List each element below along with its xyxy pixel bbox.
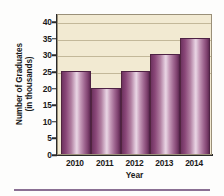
x-axis-tick-label: 2011: [90, 157, 120, 170]
bar: [180, 38, 210, 154]
x-axis-tick-label: 2010: [60, 157, 90, 170]
plot-area: [57, 14, 212, 155]
y-axis-tick-label: 15: [43, 101, 52, 110]
bar: [91, 88, 121, 154]
y-axis-tick-label: 30: [43, 51, 52, 60]
bar-series: [58, 15, 211, 154]
bar-chart-figure: Number of Graduates (in thousands) 05101…: [0, 0, 224, 196]
y-axis-tick-label: 10: [43, 117, 52, 126]
y-axis-tick-labels: 0510152025303540: [34, 14, 54, 155]
bar: [61, 71, 91, 154]
x-axis-title: Year: [57, 170, 212, 180]
y-axis-tick-label: 40: [43, 18, 52, 27]
bar: [150, 54, 180, 154]
plot-inner: [58, 15, 211, 154]
x-axis-tick-label: 2013: [149, 157, 179, 170]
bar: [121, 71, 151, 154]
x-axis-tick-label: 2014: [179, 157, 209, 170]
y-axis-tick-label: 25: [43, 68, 52, 77]
y-axis-tick-label: 35: [43, 34, 52, 43]
y-axis-title-text: Number of Graduates (in thousands): [15, 43, 35, 125]
y-axis-title-line-1: Number of Graduates: [15, 43, 24, 125]
bottom-divider: [14, 189, 210, 191]
x-axis-tick-labels: 20102011201220132014: [57, 157, 212, 170]
y-axis-tick-label: 20: [43, 84, 52, 93]
x-axis-tick-label: 2012: [120, 157, 150, 170]
